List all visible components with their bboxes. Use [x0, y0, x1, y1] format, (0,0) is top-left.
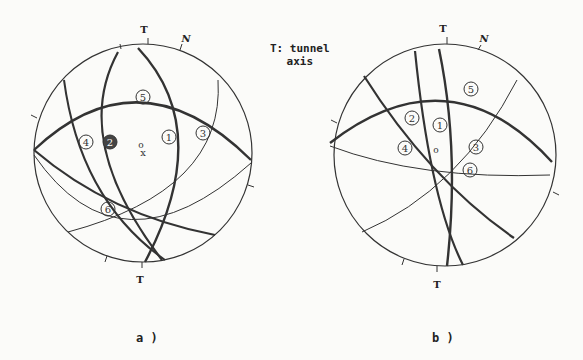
stereonet-b	[330, 37, 559, 272]
svg-text:3: 3	[200, 128, 206, 139]
svg-text:4: 4	[402, 143, 408, 154]
tunnel-label-b-bottom: T	[433, 279, 441, 290]
north-label-a: N	[180, 33, 191, 44]
caption-b: b )	[432, 331, 454, 345]
legend: T: tunnel axis	[270, 42, 330, 68]
svg-text:6: 6	[467, 165, 473, 176]
figure: 4 2 5 1 3 6 o x T N T 2 1	[0, 0, 583, 360]
svg-text:1: 1	[166, 132, 172, 143]
svg-text:3: 3	[473, 142, 479, 153]
tunnel-label-b-top: T	[439, 23, 447, 34]
caption-a: a )	[136, 331, 158, 345]
svg-text:5: 5	[140, 92, 146, 103]
svg-text:4: 4	[83, 137, 89, 148]
legend-line-1: T: tunnel	[270, 42, 330, 55]
north-label-b: N	[478, 33, 489, 44]
set-labels-b: 2 1 5 4 3 6 o	[398, 82, 483, 177]
legend-line-2: axis	[270, 55, 330, 68]
svg-text:1: 1	[437, 120, 443, 131]
tunnel-label-a-bottom: T	[136, 274, 144, 285]
tunnel-label-a-top: T	[140, 24, 148, 35]
svg-text:2: 2	[107, 137, 113, 148]
svg-text:x: x	[140, 147, 146, 158]
svg-text:6: 6	[105, 204, 111, 215]
svg-text:2: 2	[409, 113, 415, 124]
svg-text:o: o	[433, 145, 438, 155]
svg-text:5: 5	[468, 84, 474, 95]
